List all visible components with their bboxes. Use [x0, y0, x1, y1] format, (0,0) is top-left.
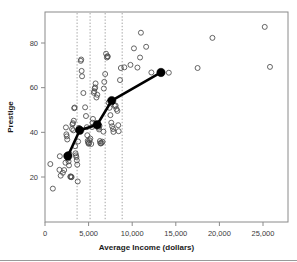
scatter-point [195, 66, 200, 71]
scatter-point [108, 113, 113, 118]
scatter-point [81, 91, 86, 96]
scatter-point [116, 129, 121, 134]
scatter-point [50, 186, 55, 191]
scatter-point [116, 123, 121, 128]
scatter-point [57, 167, 62, 172]
y-tick-label-3: 80 [30, 39, 38, 48]
scatter-point [117, 78, 122, 83]
scatter-point [79, 68, 84, 73]
x-tick-label-0: 0 [43, 229, 47, 238]
scatter-point [101, 86, 106, 91]
scatter-point [80, 74, 85, 79]
scatter-point [63, 125, 68, 130]
scatter-point [149, 70, 154, 75]
scatter-point [65, 137, 70, 142]
footer-divider [0, 260, 297, 261]
x-tick-label-5: 25,000 [252, 229, 275, 238]
scatter-point [144, 44, 149, 49]
plot-frame [45, 12, 288, 222]
scatter-point [109, 120, 114, 125]
x-tick-label-3: 15,000 [164, 229, 187, 238]
scatter-point [122, 65, 127, 70]
scatter-plot: 05,00010,00015,00020,00025,00020406080Av… [0, 0, 297, 262]
x-axis-title: Average Income (dollars) [99, 243, 195, 252]
x-tick-label-1: 5,000 [79, 229, 98, 238]
scatter-point [57, 154, 62, 159]
scatter-point [267, 64, 272, 69]
fit-knot-point [76, 126, 84, 134]
scatter-point [210, 35, 215, 40]
scatter-point [262, 24, 267, 29]
scatter-points-group [48, 24, 273, 191]
fit-knot-point [93, 121, 101, 129]
scatter-point [138, 30, 143, 35]
scatter-point [70, 126, 75, 131]
x-tick-label-2: 10,000 [121, 229, 144, 238]
scatter-point [166, 70, 171, 75]
scatter-point [102, 79, 107, 84]
fit-knot-point [64, 152, 72, 160]
scatter-point [75, 179, 80, 184]
scatter-point [85, 133, 90, 138]
fit-knots-group [64, 68, 166, 160]
scatter-point [48, 162, 53, 167]
y-tick-label-2: 60 [30, 83, 38, 92]
scatter-point [128, 62, 133, 67]
fit-knot-point [108, 96, 116, 104]
x-tick-label-4: 20,000 [208, 229, 231, 238]
scatter-point [83, 105, 88, 110]
scatter-point [71, 128, 76, 133]
fitted-line [68, 72, 161, 156]
scatter-point [138, 55, 143, 60]
scatter-point [115, 108, 120, 113]
scatter-point [135, 65, 140, 70]
scatter-point [131, 46, 136, 51]
y-axis-title: Prestige [6, 101, 15, 133]
scatter-point [83, 114, 88, 119]
figure-container: 05,00010,00015,00020,00025,00020406080Av… [0, 0, 297, 262]
scatter-point [111, 129, 116, 134]
fit-knot-point [157, 68, 165, 76]
y-tick-label-0: 20 [30, 173, 38, 182]
y-tick-label-1: 40 [30, 128, 38, 137]
